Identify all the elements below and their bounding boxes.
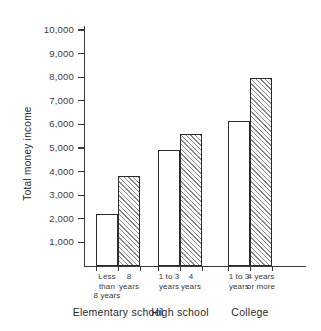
bar [96, 214, 118, 266]
bar [250, 78, 272, 266]
bar [180, 134, 202, 266]
bar-category-label: 4 yearsor more [239, 272, 283, 291]
y-axis-tick-label: 8,000 [22, 71, 74, 82]
x-axis-tick [228, 266, 229, 271]
x-axis-tick [158, 266, 159, 271]
y-axis-tick [78, 124, 84, 125]
bar [118, 176, 140, 266]
bar [228, 121, 250, 266]
y-axis-tick [78, 242, 84, 243]
bar-label-line: or more [239, 282, 283, 292]
group-label: College [190, 306, 310, 318]
y-axis-tick [78, 100, 84, 101]
y-axis-tick-label: 9,000 [22, 48, 74, 59]
y-axis-tick [78, 147, 84, 148]
y-axis-tick [78, 77, 84, 78]
y-axis-tick-label: 10,000 [22, 24, 74, 35]
bar-chart: 1,0002,0003,0004,0005,0006,0007,0008,000… [0, 0, 321, 331]
bar-label-line: 8 [107, 272, 151, 282]
bar-label-line: years [107, 282, 151, 292]
x-axis-tick [180, 266, 181, 271]
bar [158, 150, 180, 266]
y-axis-tick [78, 29, 84, 30]
x-axis-tick [118, 266, 119, 271]
bar-label-line: 8 years [85, 291, 129, 301]
x-axis-tick [96, 266, 97, 271]
x-axis-tick [250, 266, 251, 271]
y-axis-tick [78, 171, 84, 172]
bar-label-line: years [169, 282, 213, 292]
y-axis-title: Total money income [22, 84, 33, 224]
x-axis-tick [272, 266, 273, 271]
bar-category-label: 4years [169, 272, 213, 291]
bar-category-label: 8years [107, 272, 151, 291]
y-axis-tick [78, 218, 84, 219]
bar-label-line: 4 [169, 272, 213, 282]
bar-label-line: 4 years [239, 272, 283, 282]
x-axis-tick [140, 266, 141, 271]
plot-area: 1,0002,0003,0004,0005,0006,0007,0008,000… [0, 0, 321, 331]
y-axis-tick [78, 195, 84, 196]
y-axis-tick [78, 53, 84, 54]
y-axis-tick-label: 1,000 [22, 236, 74, 247]
x-axis-tick [202, 266, 203, 271]
y-axis-line [84, 26, 85, 267]
